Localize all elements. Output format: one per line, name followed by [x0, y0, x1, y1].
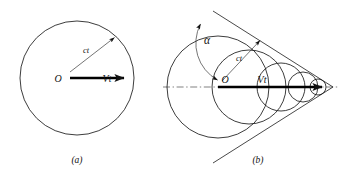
panel-a-ct-radius-arrow: [70, 38, 115, 73]
panel-a-group: O ct Vt (a): [20, 21, 134, 166]
panel-b-alpha-label: α: [204, 34, 211, 46]
panel-a-caption: (a): [71, 155, 82, 166]
panel-b-lower-mach-line: [213, 87, 333, 163]
panel-a-center-label: O: [54, 73, 61, 84]
panel-b-alpha-angle-arc: [196, 24, 218, 80]
figure-root: O ct Vt (a) α: [0, 0, 339, 178]
panel-b-vt-label: Vt: [258, 74, 267, 85]
panel-b-ct-label: ct: [236, 53, 243, 63]
panel-b-caption: (b): [252, 155, 263, 166]
panel-a-ct-label: ct: [83, 45, 90, 55]
panel-b-center-label: O: [221, 74, 228, 85]
wavefront-figure-svg: O ct Vt (a) α: [0, 0, 339, 178]
panel-b-upper-mach-line: [213, 11, 333, 87]
panel-a-vt-label: Vt: [103, 73, 112, 84]
panel-b-group: α O ct Vt (b): [163, 11, 339, 166]
